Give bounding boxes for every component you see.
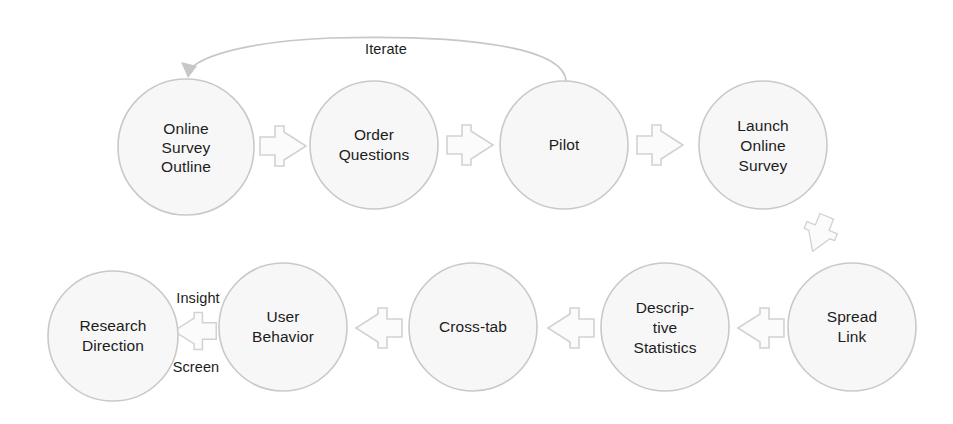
node-circle (788, 263, 916, 391)
node-research-direction[interactable]: Research Direction (48, 271, 178, 401)
node-circle (409, 263, 537, 391)
edge-label-iterate: Iterate (365, 41, 407, 57)
node-spread-link[interactable]: Spread Link (788, 263, 916, 391)
process-flow-diagram: Online Survey Outline Order Questions Pi… (0, 0, 953, 424)
iterate-feedback-edge (181, 37, 566, 82)
iterate-curve-path (190, 37, 566, 82)
node-descriptive-statistics[interactable]: Descrip- tive Statistics (601, 263, 729, 391)
arrow-outline-to-order (260, 126, 306, 166)
arrow-launch-to-spread (797, 210, 842, 257)
node-user-behavior[interactable]: User Behavior (219, 263, 347, 391)
node-circle (118, 79, 254, 215)
diagram-canvas: Online Survey Outline Order Questions Pi… (0, 0, 953, 424)
node-circle (500, 81, 628, 209)
node-circle (219, 263, 347, 391)
node-cross-tab[interactable]: Cross-tab (409, 263, 537, 391)
node-online-survey-outline[interactable]: Online Survey Outline (118, 79, 254, 215)
node-circle (601, 263, 729, 391)
node-circle (699, 81, 827, 209)
arrow-crosstab-to-behavior (356, 308, 402, 348)
node-order-questions[interactable]: Order Questions (310, 81, 438, 209)
node-launch-online-survey[interactable]: Launch Online Survey (699, 81, 827, 209)
arrow-pilot-to-launch (637, 125, 683, 165)
edge-label-screen: Screen (173, 359, 220, 375)
arrow-spread-to-descriptive (738, 308, 784, 348)
arrow-order-to-pilot (447, 125, 493, 165)
node-circle (310, 81, 438, 209)
edge-label-insight: Insight (176, 290, 219, 306)
arrow-descriptive-to-crosstab (548, 308, 594, 348)
node-circle (48, 271, 178, 401)
arrow-behavior-to-research (174, 313, 216, 350)
node-pilot[interactable]: Pilot (500, 81, 628, 209)
